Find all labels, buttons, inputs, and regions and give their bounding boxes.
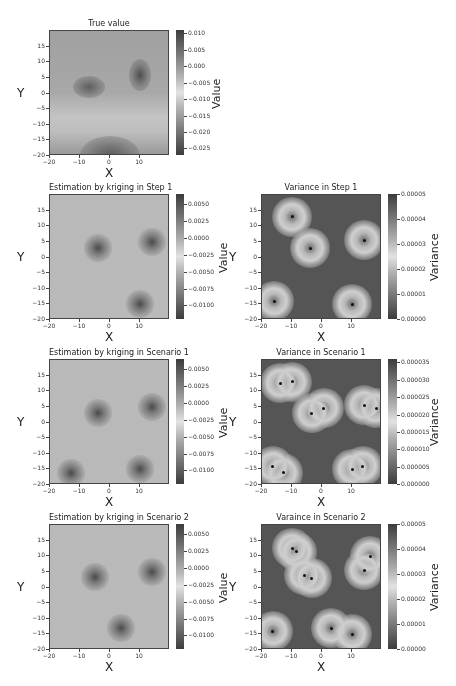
y-tick-mark (258, 587, 261, 588)
y-tick-mark (46, 555, 49, 556)
y-axis-label: Y (229, 581, 236, 593)
x-tick-label: 0 (99, 159, 119, 165)
colorbar-tick-label: 0.0050 (188, 201, 209, 207)
y-tick-label: −5 (241, 269, 257, 275)
field-feature (138, 228, 166, 256)
colorbar-tick-mark (184, 602, 187, 603)
y-tick-mark (258, 272, 261, 273)
y-tick-label: 15 (29, 207, 45, 213)
colorbar (388, 524, 397, 649)
y-tick-label: 5 (241, 238, 257, 244)
y-tick-mark (46, 108, 49, 109)
colorbar-tick-mark (397, 219, 400, 220)
y-tick-label: 5 (29, 238, 45, 244)
y-tick-label: 10 (29, 552, 45, 558)
y-tick-label: −5 (241, 434, 257, 440)
colorbar-tick-label: 0.0025 (188, 218, 209, 224)
x-tick-label: −10 (281, 323, 301, 329)
colorbar-tick-mark (397, 624, 400, 625)
y-tick-mark (258, 375, 261, 376)
sample-point-marker (363, 569, 366, 572)
y-tick-label: −10 (29, 450, 45, 456)
colorbar-label: Value (218, 407, 229, 437)
y-tick-mark (46, 540, 49, 541)
x-axis-label: X (105, 496, 113, 508)
sample-point-marker (369, 555, 372, 558)
chart-title: Variance in Scenario 1 (261, 348, 381, 357)
y-tick-mark (46, 272, 49, 273)
y-tick-mark (46, 241, 49, 242)
x-tick-label: 0 (311, 653, 331, 659)
colorbar-tick-mark (397, 449, 400, 450)
x-axis-label: X (105, 167, 113, 179)
y-tick-label: 0 (241, 584, 257, 590)
chart-title: Variance in Step 1 (261, 183, 381, 192)
x-tick-label: 10 (341, 488, 361, 494)
y-tick-label: 15 (29, 537, 45, 543)
y-tick-mark (46, 587, 49, 588)
x-axis-label: X (317, 331, 325, 343)
x-tick-label: −10 (69, 323, 89, 329)
field-feature (81, 563, 109, 591)
colorbar (388, 194, 397, 319)
y-tick-label: 5 (29, 403, 45, 409)
y-tick-label: 10 (241, 387, 257, 393)
y-tick-label: −5 (29, 269, 45, 275)
y-tick-label: −10 (29, 285, 45, 291)
colorbar-tick-mark (184, 66, 187, 67)
colorbar-tick-label: −0.020 (188, 129, 210, 135)
y-tick-mark (258, 390, 261, 391)
colorbar-tick-mark (184, 33, 187, 34)
y-tick-label: 15 (29, 372, 45, 378)
y-tick-mark (46, 618, 49, 619)
y-tick-label: 15 (241, 372, 257, 378)
y-tick-label: 0 (29, 584, 45, 590)
colorbar-tick-mark (397, 362, 400, 363)
y-axis-label: Y (229, 251, 236, 263)
colorbar-tick-mark (184, 238, 187, 239)
y-tick-mark (258, 555, 261, 556)
sample-point-marker (282, 471, 285, 474)
y-tick-mark (46, 422, 49, 423)
y-tick-mark (258, 406, 261, 407)
y-tick-mark (258, 225, 261, 226)
colorbar-tick-label: 0.00002 (401, 266, 426, 272)
x-tick-label: −20 (39, 159, 59, 165)
y-tick-mark (46, 93, 49, 94)
y-tick-label: −15 (241, 465, 257, 471)
colorbar-tick-label: −0.0100 (188, 632, 214, 638)
y-tick-label: 0 (29, 419, 45, 425)
y-tick-mark (46, 406, 49, 407)
y-tick-label: −15 (241, 300, 257, 306)
y-tick-mark (46, 124, 49, 125)
sample-point-marker (351, 633, 354, 636)
y-tick-mark (46, 571, 49, 572)
colorbar-tick-label: −0.0025 (188, 417, 214, 423)
sample-point-marker (310, 412, 313, 415)
y-tick-label: −5 (29, 105, 45, 111)
colorbar-tick-label: −0.0050 (188, 434, 214, 440)
colorbar-tick-mark (397, 319, 400, 320)
y-tick-mark (46, 453, 49, 454)
colorbar-tick-mark (184, 470, 187, 471)
y-tick-label: 5 (29, 74, 45, 80)
colorbar-tick-mark (184, 551, 187, 552)
y-tick-label: 5 (29, 568, 45, 574)
y-tick-label: 10 (29, 387, 45, 393)
sample-point-marker (363, 404, 366, 407)
x-tick-label: −10 (281, 653, 301, 659)
y-tick-label: 10 (241, 222, 257, 228)
colorbar-tick-mark (184, 619, 187, 620)
colorbar-tick-mark (397, 432, 400, 433)
y-tick-label: −10 (241, 615, 257, 621)
colorbar-tick-mark (397, 380, 400, 381)
y-tick-mark (46, 602, 49, 603)
colorbar-tick-label: 0.00002 (401, 596, 426, 602)
colorbar-tick-label: 0.00001 (401, 291, 426, 297)
sample-point-marker (310, 577, 313, 580)
colorbar-tick-mark (397, 467, 400, 468)
colorbar (176, 194, 184, 319)
colorbar-tick-label: −0.0075 (188, 616, 214, 622)
x-axis-label: X (105, 331, 113, 343)
y-tick-mark (258, 602, 261, 603)
